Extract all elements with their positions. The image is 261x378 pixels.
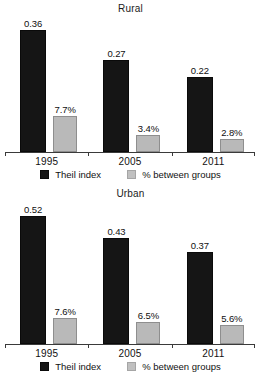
x-axis-label: 2005 — [88, 348, 171, 359]
plot-area-rural: 0.36 7.7% 0.27 3.4% — [5, 14, 255, 152]
chart-panel-urban: Urban 0.52 7.6% 0.43 — [0, 186, 261, 378]
bar-wrap-rural-theil-2011: 0.22 — [187, 14, 213, 152]
x-axis-label: 2011 — [172, 156, 255, 167]
legend-label: % between groups — [142, 169, 221, 180]
chart-panel-rural: Rural 0.36 7.7% 0.27 — [0, 0, 261, 186]
bar-wrap-rural-theil-2005: 0.27 — [103, 14, 129, 152]
legend-swatch-gray-icon — [127, 362, 136, 371]
bar-value-label: 3.4% — [138, 123, 159, 134]
chart-title-urban: Urban — [0, 188, 261, 199]
legend-urban: Theil index % between groups — [0, 361, 261, 372]
bar-value-label: 0.27 — [107, 48, 125, 59]
legend-item-between-groups[interactable]: % between groups — [127, 169, 221, 180]
bar-group-rural-1995: 0.36 7.7% — [5, 14, 88, 152]
x-axis-label: 2011 — [172, 348, 255, 359]
bar-wrap-urban-theil-1995: 0.52 — [20, 200, 46, 344]
bar-rural-pct-2011[interactable] — [220, 139, 244, 152]
bar-group-urban-2011: 0.37 5.6% — [172, 200, 255, 344]
bar-value-label: 0.43 — [107, 226, 125, 237]
bar-urban-pct-2011[interactable] — [220, 325, 244, 344]
bar-wrap-rural-theil-1995: 0.36 — [20, 14, 46, 152]
bar-wrap-rural-pct-2005: 3.4% — [136, 14, 160, 152]
bar-wrap-urban-pct-2011: 5.6% — [220, 200, 244, 344]
legend-swatch-dark-icon — [40, 170, 49, 179]
legend-rural: Theil index % between groups — [0, 169, 261, 180]
bar-wrap-urban-pct-2005: 6.5% — [136, 200, 160, 344]
x-axis-labels-rural: 1995 2005 2011 — [5, 156, 255, 167]
bar-group-rural-2011: 0.22 2.8% — [172, 14, 255, 152]
legend-label: % between groups — [142, 361, 221, 372]
bar-rural-theil-2011[interactable] — [187, 77, 213, 152]
legend-item-between-groups[interactable]: % between groups — [127, 361, 221, 372]
bar-urban-theil-2011[interactable] — [187, 252, 213, 344]
bar-urban-pct-1995[interactable] — [53, 318, 77, 344]
bar-value-label: 0.37 — [191, 240, 209, 251]
bar-value-label: 0.22 — [191, 65, 209, 76]
bar-urban-theil-1995[interactable] — [20, 216, 46, 344]
bar-value-label: 0.36 — [24, 18, 42, 29]
plot-area-urban: 0.52 7.6% 0.43 6.5% — [5, 200, 255, 344]
bar-wrap-rural-pct-1995: 7.7% — [53, 14, 77, 152]
bar-wrap-urban-theil-2005: 0.43 — [103, 200, 129, 344]
legend-swatch-dark-icon — [40, 362, 49, 371]
bar-urban-pct-2005[interactable] — [136, 322, 160, 344]
bar-group-rural-2005: 0.27 3.4% — [88, 14, 171, 152]
legend-label: Theil index — [55, 361, 101, 372]
bar-groups-rural: 0.36 7.7% 0.27 3.4% — [5, 14, 255, 152]
bar-rural-theil-2005[interactable] — [103, 60, 129, 152]
legend-label: Theil index — [55, 169, 101, 180]
bar-value-label: 7.7% — [55, 104, 76, 115]
x-axis-label: 1995 — [5, 156, 88, 167]
chart-title-rural: Rural — [0, 3, 261, 14]
bar-group-urban-1995: 0.52 7.6% — [5, 200, 88, 344]
bar-rural-pct-2005[interactable] — [136, 135, 160, 152]
bar-rural-theil-1995[interactable] — [20, 30, 46, 152]
x-axis-label: 1995 — [5, 348, 88, 359]
bar-value-label: 7.6% — [55, 306, 76, 317]
bar-wrap-urban-pct-1995: 7.6% — [53, 200, 77, 344]
bar-urban-theil-2005[interactable] — [103, 238, 129, 344]
bar-groups-urban: 0.52 7.6% 0.43 6.5% — [5, 200, 255, 344]
bar-value-label: 2.8% — [221, 127, 242, 138]
bar-wrap-rural-pct-2011: 2.8% — [220, 14, 244, 152]
legend-item-theil-index[interactable]: Theil index — [40, 169, 101, 180]
bar-rural-pct-1995[interactable] — [53, 116, 77, 152]
legend-swatch-gray-icon — [127, 170, 136, 179]
bar-value-label: 5.6% — [221, 313, 242, 324]
legend-item-theil-index[interactable]: Theil index — [40, 361, 101, 372]
bar-group-urban-2005: 0.43 6.5% — [88, 200, 171, 344]
x-axis-label: 2005 — [88, 156, 171, 167]
bar-value-label: 6.5% — [138, 310, 159, 321]
bar-wrap-urban-theil-2011: 0.37 — [187, 200, 213, 344]
bar-value-label: 0.52 — [24, 204, 42, 215]
x-axis-labels-urban: 1995 2005 2011 — [5, 348, 255, 359]
